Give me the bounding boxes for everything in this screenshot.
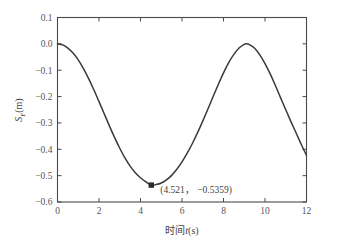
y-axis-ticks: 0.10.0−0.1−0.2−0.3−0.4−0.5−0.6 (35, 13, 306, 208)
x-tick-label: 10 (260, 206, 270, 216)
y-tick-label: −0.2 (35, 92, 52, 102)
y-tick-label: 0.1 (41, 13, 53, 23)
line-chart-svg: 0.10.0−0.1−0.2−0.3−0.4−0.5−0.6 024681012… (0, 0, 340, 248)
x-axis-title-unit: (s) (188, 225, 199, 237)
y-tick-label: −0.3 (35, 118, 52, 128)
x-tick-label: 6 (180, 206, 185, 216)
minimum-point-annotation: (4.521， −0.5359) (160, 185, 232, 196)
y-tick-label: −0.4 (35, 145, 52, 155)
svg-text:时间t(s): 时间t(s) (165, 224, 198, 237)
plot-frame (58, 18, 307, 203)
y-tick-label: −0.6 (35, 197, 52, 207)
data-series-line (58, 44, 307, 185)
y-axis-title: SF(m) (13, 98, 27, 121)
x-axis-title: 时间t(s) (165, 224, 198, 237)
y-tick-label: −0.1 (35, 66, 52, 76)
y-tick-label: 0.0 (41, 39, 53, 49)
x-tick-label: 4 (138, 206, 143, 216)
x-tick-label: 0 (55, 206, 60, 216)
y-axis-title-unit: (m) (13, 98, 25, 112)
x-tick-label: 12 (302, 206, 312, 216)
chart-figure: 0.10.0−0.1−0.2−0.3−0.4−0.5−0.6 024681012… (0, 0, 340, 248)
x-tick-label: 8 (221, 206, 226, 216)
svg-text:SF(m): SF(m) (13, 98, 27, 121)
y-tick-label: −0.5 (35, 171, 52, 181)
x-axis-title-cjk: 时间 (165, 224, 185, 236)
x-tick-label: 2 (97, 206, 102, 216)
minimum-point-marker (149, 182, 154, 187)
